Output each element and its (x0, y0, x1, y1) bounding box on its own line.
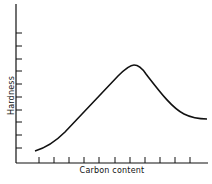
y-ticks (16, 33, 22, 148)
chart-canvas (0, 0, 212, 184)
x-axis-label: Carbon content (16, 166, 208, 175)
x-ticks (39, 157, 190, 163)
y-axis-label: Hardness (7, 71, 16, 121)
hardness-curve (35, 65, 207, 151)
